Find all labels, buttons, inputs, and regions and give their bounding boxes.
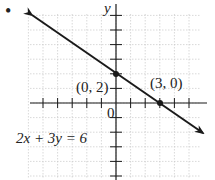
y-axis bbox=[110, 4, 122, 180]
point-label-0-2: (0, 2) bbox=[76, 79, 109, 96]
point-y-intercept bbox=[113, 71, 119, 77]
x-axis bbox=[30, 98, 207, 108]
bullet-marker: • bbox=[5, 1, 11, 21]
y-axis-label: y bbox=[102, 0, 111, 16]
grid bbox=[28, 14, 200, 178]
equation-label: 2x + 3y = 6 bbox=[16, 130, 88, 146]
origin-label: 0 bbox=[107, 105, 115, 121]
point-x-intercept bbox=[157, 100, 163, 106]
point-label-3-0: (3, 0) bbox=[150, 75, 183, 92]
line-graph: • y (0, 2) (3, 0) 0 2x + 3y = 6 bbox=[0, 0, 215, 180]
